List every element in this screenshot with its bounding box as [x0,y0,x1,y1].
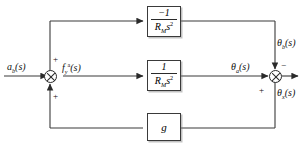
sign-right-top: − [281,61,286,70]
fraction-upper: −1 RMs2 [151,8,177,35]
summing-junction-left[interactable] [44,70,57,83]
denominator-middle: RMs2 [153,74,175,89]
sign-left-top: + [53,55,58,64]
fraction-middle: 1 RMs2 [151,62,177,89]
numerator-middle: 1 [160,62,169,73]
input-signal-label: ab(s) [7,62,26,74]
gain-value: g [161,121,167,133]
summing-junction-right[interactable] [269,70,282,83]
denominator-upper: RMs2 [153,20,175,35]
theta-x-label: θx(s) [277,88,295,100]
gain-block-lower[interactable]: g [147,113,181,141]
transfer-function-block-upper[interactable]: −1 RMs2 [147,6,181,37]
transfer-function-block-middle[interactable]: 1 RMs2 [147,60,181,91]
block-diagram: −1 RMs2 1 RMs2 g ab(s) fya(s) θa(s) θb(s… [0,0,301,147]
sign-left-bottom: + [53,92,58,101]
theta-a-label: θa(s) [231,62,250,74]
sign-right-bottom: + [259,86,264,95]
theta-b-label: θb(s) [277,38,296,50]
force-signal-label: fya(s) [62,62,81,76]
numerator-upper: −1 [156,8,172,19]
